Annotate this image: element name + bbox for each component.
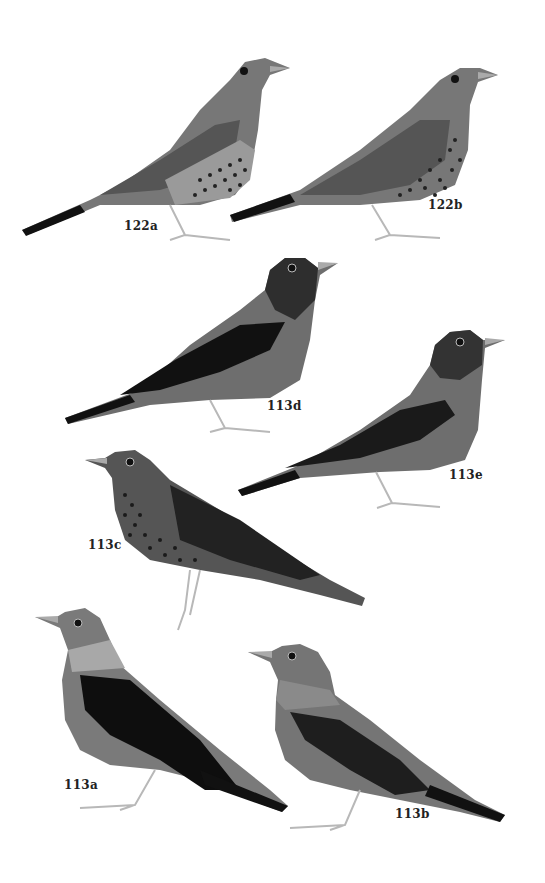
bird-122b (230, 68, 498, 240)
figure-label-113c: 113c (88, 538, 122, 552)
bird-113c (85, 450, 365, 630)
figure-label-113b: 113b (395, 807, 430, 821)
figure-label-113e: 113e (449, 468, 483, 482)
bird-plate: 122a 122b 113d 113e 113c 113a 113b (0, 0, 545, 883)
bird-113b (248, 644, 505, 830)
figure-label-122a: 122a (124, 219, 158, 233)
bird-illustrations (0, 0, 545, 883)
figure-label-113a: 113a (64, 778, 98, 792)
figure-label-122b: 122b (428, 198, 463, 212)
figure-label-113d: 113d (267, 399, 302, 413)
